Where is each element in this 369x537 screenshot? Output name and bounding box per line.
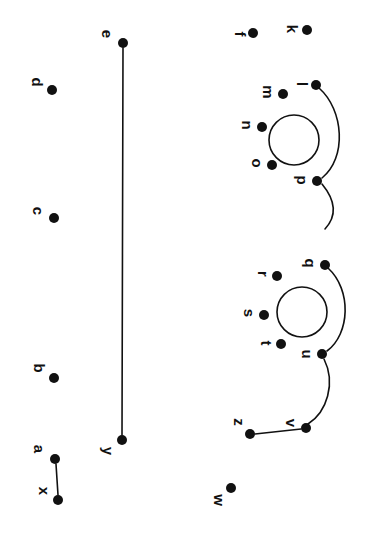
- node-label-k: k: [285, 25, 300, 33]
- curved-edges-group: [308, 88, 345, 424]
- node-label-z: z: [232, 418, 247, 426]
- arc-l-p: [319, 88, 339, 178]
- node-dot-b[interactable]: [49, 373, 59, 383]
- node-dot-m[interactable]: [278, 89, 288, 99]
- node-label-u: u: [300, 349, 315, 358]
- edge-e-y: [122, 48, 123, 435]
- node-dot-x[interactable]: [53, 495, 63, 505]
- node-label-m: m: [261, 85, 276, 98]
- node-dot-c[interactable]: [49, 213, 59, 223]
- node-label-r: r: [256, 271, 271, 277]
- node-label-q: q: [303, 258, 318, 267]
- node-dot-t[interactable]: [276, 339, 286, 349]
- diagram-svg: [0, 0, 369, 537]
- node-label-w: w: [212, 494, 227, 506]
- arc-q-u: [327, 268, 345, 351]
- node-dot-k[interactable]: [302, 25, 312, 35]
- node-dot-a[interactable]: [50, 454, 60, 464]
- edge-a-x: [56, 464, 58, 495]
- nodes-group: [47, 25, 330, 505]
- node-label-f: f: [233, 32, 248, 37]
- rings-group: [269, 115, 327, 337]
- node-label-x: x: [37, 487, 52, 495]
- node-label-y: y: [101, 447, 116, 455]
- node-dot-y[interactable]: [117, 435, 127, 445]
- node-label-v: v: [284, 419, 299, 427]
- ring-lower: [277, 287, 327, 337]
- node-label-p: p: [295, 175, 310, 184]
- edge-z-v: [255, 429, 301, 434]
- diagram-canvas: abcdefklmnopqrstuvwxyz: [0, 0, 369, 537]
- node-dot-r[interactable]: [272, 271, 282, 281]
- node-dot-s[interactable]: [259, 310, 269, 320]
- node-dot-d[interactable]: [47, 85, 57, 95]
- node-label-c: c: [31, 207, 46, 215]
- node-dot-e[interactable]: [118, 38, 128, 48]
- node-label-d: d: [30, 77, 45, 86]
- tail-u-v: [308, 359, 329, 424]
- tail-p: [322, 184, 333, 229]
- node-label-b: b: [32, 363, 47, 372]
- node-label-o: o: [250, 158, 265, 167]
- node-dot-v[interactable]: [301, 423, 311, 433]
- node-dot-o[interactable]: [267, 160, 277, 170]
- node-label-s: s: [242, 309, 257, 317]
- node-dot-l[interactable]: [311, 80, 321, 90]
- node-dot-z[interactable]: [245, 429, 255, 439]
- node-dot-q[interactable]: [320, 260, 330, 270]
- node-label-e: e: [100, 30, 115, 38]
- node-dot-w[interactable]: [226, 483, 236, 493]
- node-dot-u[interactable]: [317, 349, 327, 359]
- node-label-n: n: [240, 120, 255, 129]
- node-label-a: a: [32, 445, 47, 453]
- node-dot-n[interactable]: [257, 122, 267, 132]
- node-dot-f[interactable]: [248, 28, 258, 38]
- node-label-l: l: [295, 82, 310, 86]
- ring-upper: [269, 115, 319, 165]
- node-dot-p[interactable]: [312, 176, 322, 186]
- node-label-t: t: [259, 341, 274, 346]
